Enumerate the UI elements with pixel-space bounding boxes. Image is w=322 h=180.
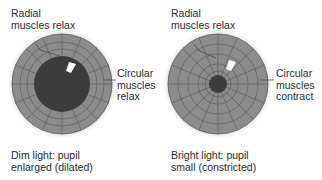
label-circular-muscles-right: Circular muscles contract <box>276 68 315 103</box>
iris-constricted <box>162 28 274 140</box>
label-line: Circular <box>117 68 156 80</box>
pupil-dilated <box>34 56 90 112</box>
label-circular-muscles-left: Circular muscles relax <box>117 68 156 103</box>
caption-line: Bright light: pupil <box>171 150 256 162</box>
label-line: contract <box>276 91 315 103</box>
caption-line: Dim light: pupil <box>11 150 93 162</box>
label-line: Radial <box>11 8 75 20</box>
iris-dilated <box>6 28 118 140</box>
label-line: Radial <box>171 8 235 20</box>
label-line: muscles relax <box>11 20 75 32</box>
caption-line: small (constricted) <box>171 162 256 174</box>
pupil-constricted <box>209 75 227 93</box>
caption-bright-light: Bright light: pupil small (constricted) <box>171 150 256 173</box>
label-radial-muscles-left: Radial muscles relax <box>11 8 75 31</box>
label-line: Circular <box>276 68 315 80</box>
caption-line: enlarged (dilated) <box>11 162 93 174</box>
caption-dim-light: Dim light: pupil enlarged (dilated) <box>11 150 93 173</box>
label-line: muscles relax <box>171 20 235 32</box>
label-line: relax <box>117 91 156 103</box>
label-radial-muscles-right: Radial muscles relax <box>171 8 235 31</box>
